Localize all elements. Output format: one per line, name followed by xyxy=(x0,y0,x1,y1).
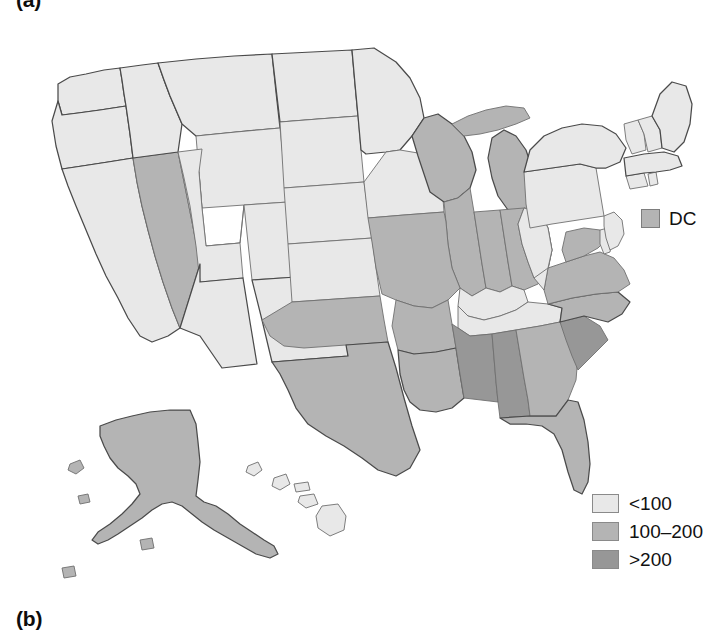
state-HI-molokai[interactable] xyxy=(294,482,310,492)
legend-label-high: >200 xyxy=(629,550,672,569)
legend-swatch-high xyxy=(592,550,619,569)
dc-label: DC xyxy=(669,209,696,228)
state-KS[interactable] xyxy=(288,238,380,302)
state-PA-body[interactable] xyxy=(524,164,604,228)
figure-root: (a) xyxy=(0,0,726,644)
legend-row-mid: 100–200 xyxy=(592,522,703,541)
state-HI-kauai[interactable] xyxy=(246,462,262,476)
state-MA[interactable] xyxy=(624,152,682,176)
state-HI-maui[interactable] xyxy=(298,494,318,508)
state-HI-oahu[interactable] xyxy=(272,474,290,490)
state-NE[interactable] xyxy=(284,182,372,244)
state-AK-island-1[interactable] xyxy=(68,460,84,474)
state-AK[interactable] xyxy=(92,410,278,558)
legend-label-mid: 100–200 xyxy=(629,522,703,541)
legend-swatch-low xyxy=(592,494,619,513)
state-ND[interactable] xyxy=(272,50,358,122)
map-legend: <100 100–200 >200 xyxy=(592,494,703,569)
legend-row-low: <100 xyxy=(592,494,703,513)
state-MI-upper[interactable] xyxy=(452,106,530,136)
state-AK-island-3[interactable] xyxy=(140,538,154,550)
state-RI[interactable] xyxy=(648,172,658,186)
legend-swatch-mid xyxy=(592,522,619,541)
state-SD[interactable] xyxy=(280,116,364,188)
state-AK-island-2[interactable] xyxy=(78,494,90,504)
panel-label-b: (b) xyxy=(16,607,42,631)
dc-legend: DC xyxy=(641,209,696,228)
state-AR[interactable] xyxy=(392,300,456,354)
state-WY[interactable] xyxy=(196,128,288,208)
state-MO[interactable] xyxy=(368,212,460,308)
legend-row-high: >200 xyxy=(592,550,703,569)
state-LA[interactable] xyxy=(398,348,464,412)
legend-label-low: <100 xyxy=(629,494,672,513)
state-NY[interactable] xyxy=(524,124,626,172)
state-TX[interactable] xyxy=(272,342,420,476)
state-HI-bigisland[interactable] xyxy=(316,504,346,536)
state-AK-island-4[interactable] xyxy=(62,566,76,578)
dc-swatch xyxy=(641,209,660,228)
